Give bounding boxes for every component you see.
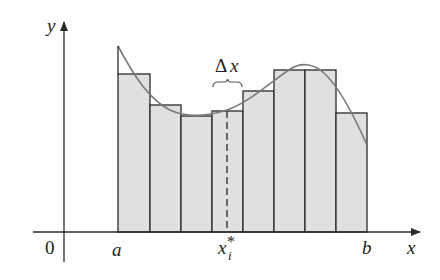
riemann-rectangle-8: [336, 113, 367, 232]
riemann-rectangle-1: [118, 74, 150, 232]
delta-symbol: Δ: [215, 55, 227, 76]
origin-label: 0: [45, 237, 55, 258]
riemann-diagram: y x 0 a b x i * Δ x: [0, 0, 440, 280]
riemann-rectangle-7: [305, 70, 336, 232]
x-axis-label: x: [406, 237, 416, 258]
riemann-rectangle-3: [181, 116, 212, 232]
xi-base: x: [217, 237, 227, 258]
xi-subscript: i: [228, 248, 232, 263]
rectangles: [118, 70, 367, 232]
xi-star-label: x i *: [217, 233, 235, 263]
brace-icon: [213, 79, 242, 87]
riemann-rectangle-5: [243, 91, 274, 232]
delta-var: x: [229, 55, 239, 76]
a-label: a: [112, 239, 122, 260]
riemann-rectangle-2: [150, 105, 181, 232]
delta-x-annotation: Δ x: [213, 55, 242, 87]
y-axis-label: y: [45, 15, 56, 36]
riemann-rectangle-6: [274, 70, 305, 232]
b-label: b: [362, 237, 372, 258]
xi-superscript: *: [227, 233, 235, 250]
